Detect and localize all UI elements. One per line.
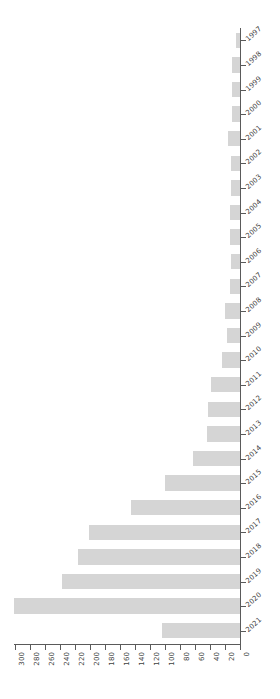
bar-row bbox=[0, 377, 240, 392]
bar-row bbox=[0, 303, 240, 318]
category-label-2020: 2020 bbox=[244, 591, 263, 609]
category-label-2018: 2018 bbox=[244, 542, 263, 560]
bar-row bbox=[0, 254, 240, 269]
category-tick-1999 bbox=[241, 90, 246, 91]
bar-2018 bbox=[78, 549, 240, 564]
category-label-1999: 1999 bbox=[244, 74, 263, 92]
category-tick-2015 bbox=[241, 483, 246, 484]
category-label-2000: 2000 bbox=[244, 99, 263, 117]
value-tick-100 bbox=[165, 645, 166, 650]
bar-row bbox=[0, 82, 240, 97]
category-label-2016: 2016 bbox=[244, 493, 263, 511]
value-label-200: 200 bbox=[93, 652, 101, 666]
bar-row bbox=[0, 549, 240, 564]
category-tick-2020 bbox=[241, 606, 246, 607]
bar-row bbox=[0, 574, 240, 589]
category-tick-1998 bbox=[241, 65, 246, 66]
bar-row bbox=[0, 180, 240, 195]
value-label-240: 240 bbox=[63, 652, 71, 666]
category-label-2011: 2011 bbox=[244, 370, 263, 388]
bar-2007 bbox=[230, 279, 240, 294]
value-tick-240 bbox=[60, 645, 61, 650]
bar-2014 bbox=[193, 451, 240, 466]
value-tick-40 bbox=[210, 645, 211, 650]
bar-row bbox=[0, 229, 240, 244]
category-tick-2005 bbox=[241, 237, 246, 238]
category-label-1997: 1997 bbox=[244, 25, 263, 43]
bar-2010 bbox=[222, 352, 240, 367]
bar-2005 bbox=[230, 229, 240, 244]
bar-2008 bbox=[225, 303, 240, 318]
bar-2019 bbox=[62, 574, 240, 589]
bar-2006 bbox=[231, 254, 240, 269]
category-tick-2004 bbox=[241, 213, 246, 214]
value-label-140: 140 bbox=[138, 652, 146, 666]
category-tick-2017 bbox=[241, 532, 246, 533]
value-tick-80 bbox=[180, 645, 181, 650]
bar-2015 bbox=[165, 475, 240, 490]
category-label-2004: 2004 bbox=[244, 197, 263, 215]
value-tick-160 bbox=[120, 645, 121, 650]
value-tick-140 bbox=[135, 645, 136, 650]
bar-2001 bbox=[228, 131, 240, 146]
value-tick-280 bbox=[30, 645, 31, 650]
value-tick-60 bbox=[195, 645, 196, 650]
category-label-2017: 2017 bbox=[244, 517, 263, 535]
bar-row bbox=[0, 106, 240, 121]
category-label-1998: 1998 bbox=[244, 50, 263, 68]
category-label-2005: 2005 bbox=[244, 222, 263, 240]
bar-row bbox=[0, 598, 240, 613]
category-label-2019: 2019 bbox=[244, 566, 263, 584]
value-axis-line bbox=[14, 644, 241, 645]
value-label-220: 220 bbox=[78, 652, 86, 666]
category-tick-2016 bbox=[241, 508, 246, 509]
value-tick-220 bbox=[75, 645, 76, 650]
category-tick-2021 bbox=[241, 631, 246, 632]
bar-row bbox=[0, 328, 240, 343]
bar-2011 bbox=[211, 377, 240, 392]
value-label-40: 40 bbox=[213, 652, 221, 661]
bar-row bbox=[0, 352, 240, 367]
bar-2016 bbox=[131, 500, 240, 515]
category-tick-2009 bbox=[241, 336, 246, 337]
category-tick-2002 bbox=[241, 163, 246, 164]
bar-1999 bbox=[232, 82, 240, 97]
value-label-60: 60 bbox=[198, 652, 206, 661]
value-tick-300 bbox=[15, 645, 16, 650]
bar-2020 bbox=[14, 598, 241, 613]
bar-row bbox=[0, 623, 240, 638]
bar-2012 bbox=[208, 402, 240, 417]
value-label-120: 120 bbox=[153, 652, 161, 666]
bar-2017 bbox=[89, 525, 240, 540]
value-tick-200 bbox=[90, 645, 91, 650]
category-tick-2000 bbox=[241, 114, 246, 115]
category-tick-2006 bbox=[241, 262, 246, 263]
category-tick-2001 bbox=[241, 139, 246, 140]
bar-1998 bbox=[232, 57, 240, 72]
bar-row bbox=[0, 500, 240, 515]
value-label-80: 80 bbox=[183, 652, 191, 661]
category-label-2008: 2008 bbox=[244, 296, 263, 314]
plot-area bbox=[0, 28, 240, 643]
category-tick-2014 bbox=[241, 459, 246, 460]
category-label-2015: 2015 bbox=[244, 468, 263, 486]
bar-2003 bbox=[231, 180, 240, 195]
value-label-180: 180 bbox=[108, 652, 116, 666]
category-tick-2013 bbox=[241, 434, 246, 435]
bar-2000 bbox=[232, 106, 240, 121]
value-label-100: 100 bbox=[168, 652, 176, 666]
category-label-2009: 2009 bbox=[244, 320, 263, 338]
value-label-280: 280 bbox=[33, 652, 41, 666]
category-label-2003: 2003 bbox=[244, 173, 263, 191]
bar-row bbox=[0, 402, 240, 417]
value-tick-0 bbox=[240, 645, 241, 650]
bar-row bbox=[0, 451, 240, 466]
value-label-0: 0 bbox=[243, 652, 251, 657]
category-tick-2012 bbox=[241, 409, 246, 410]
category-label-2013: 2013 bbox=[244, 419, 263, 437]
category-tick-2019 bbox=[241, 582, 246, 583]
category-label-2014: 2014 bbox=[244, 443, 263, 461]
bar-row bbox=[0, 131, 240, 146]
bar-row bbox=[0, 156, 240, 171]
bar-2009 bbox=[227, 328, 240, 343]
